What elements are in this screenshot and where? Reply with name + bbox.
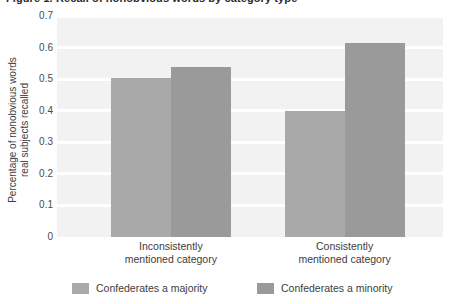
chart-legend: Confederates a majorityConfederates a mi… — [57, 281, 443, 297]
y-axis-tick-label: 0.7 — [26, 11, 53, 21]
bar — [285, 111, 345, 237]
y-axis-tick-label: 0.5 — [26, 74, 53, 84]
y-axis-title-line-1: Percentage of nonobvious words — [7, 25, 19, 235]
x-axis-category-label-line: mentioned category — [270, 253, 420, 266]
legend-label: Confederates a minority — [281, 282, 392, 294]
x-axis-category-labels: Inconsistentlymentioned categoryConsiste… — [57, 240, 443, 272]
bar — [111, 78, 171, 237]
x-axis-category-label: Inconsistentlymentioned category — [96, 240, 246, 266]
legend-item[interactable]: Confederates a minority — [257, 281, 392, 295]
y-axis-tick-label: 0 — [26, 232, 53, 242]
legend-label: Confederates a majority — [96, 282, 207, 294]
bar-group-container — [57, 16, 443, 237]
x-axis-category-label-line: Consistently — [270, 240, 420, 253]
x-axis-category-label-line: mentioned category — [96, 253, 246, 266]
bar — [345, 43, 405, 237]
y-axis-tick-label: 0.1 — [26, 200, 53, 210]
y-axis-tick-labels: 00.10.20.30.40.50.60.7 — [26, 12, 53, 240]
bar-chart: Percentage of nonobvious words real subj… — [0, 0, 449, 304]
legend-swatch-icon — [257, 283, 274, 294]
legend-swatch-icon — [72, 283, 89, 294]
x-axis-category-label: Consistentlymentioned category — [270, 240, 420, 266]
bar — [171, 67, 231, 237]
legend-item[interactable]: Confederates a majority — [72, 281, 207, 295]
y-axis-tick-label: 0.4 — [26, 106, 53, 116]
y-axis-tick-label: 0.3 — [26, 137, 53, 147]
y-axis-tick-label: 0.6 — [26, 43, 53, 53]
x-axis-category-label-line: Inconsistently — [96, 240, 246, 253]
plot-area — [57, 16, 443, 237]
y-axis-tick-label: 0.2 — [26, 169, 53, 179]
